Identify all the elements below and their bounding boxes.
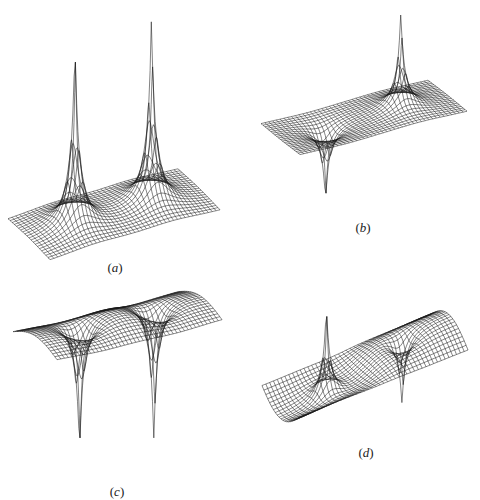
- surface-plot-c: [13, 291, 222, 438]
- wireframe-mesh: [262, 311, 468, 422]
- panel-label-b: (b): [355, 220, 370, 236]
- panel-label-a: (a): [107, 260, 122, 276]
- wireframe-mesh: [8, 22, 220, 260]
- label-paren-close: ): [118, 260, 122, 275]
- surface-plot-a: [8, 22, 220, 260]
- surface-plot-d: [262, 311, 468, 422]
- wireframe-mesh: [13, 291, 222, 438]
- panel-label-c: (c): [110, 484, 124, 500]
- surface-plots: [0, 0, 480, 500]
- label-paren-close: ): [366, 220, 370, 235]
- label-paren-close: ): [120, 484, 124, 499]
- figure-container: (a) (b) (c) (d): [0, 0, 480, 500]
- surface-plot-b: [261, 15, 467, 193]
- wireframe-mesh: [261, 15, 467, 193]
- panel-label-d: (d): [358, 445, 373, 461]
- label-paren-close: ): [369, 445, 373, 460]
